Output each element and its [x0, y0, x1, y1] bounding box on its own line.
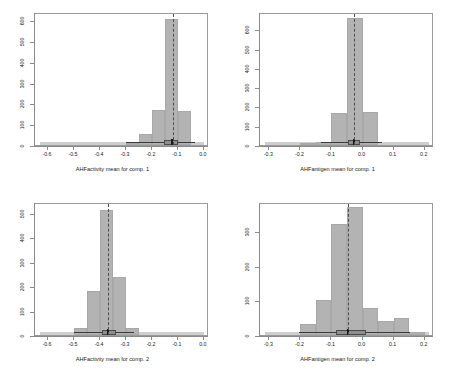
x-axis-tick-label: 0.1 — [389, 341, 396, 347]
x-axis-tick — [125, 336, 126, 340]
y-axis-tick — [255, 127, 259, 128]
y-axis-tick — [30, 42, 34, 43]
y-axis-tick — [30, 214, 34, 215]
x-axis-line — [34, 336, 208, 337]
y-axis-tick — [255, 301, 259, 302]
histogram-panel-bottom-left: AHFactivity mean for comp. 2 -0.6-0.5-0.… — [0, 190, 225, 380]
x-axis-tick-label: -0.5 — [68, 341, 77, 347]
histogram-panel-bottom-right: AHFantigen mean for comp. 2 -0.3-0.2-0.1… — [225, 190, 450, 380]
y-axis-tick — [255, 30, 259, 31]
histogram-bar — [347, 207, 363, 336]
y-axis-tick — [255, 336, 259, 337]
y-axis-tick-label: 0 — [244, 145, 250, 148]
histogram-bar — [300, 324, 316, 335]
y-axis-tick — [255, 146, 259, 147]
reference-line — [348, 204, 349, 335]
histogram-bar — [165, 19, 178, 145]
y-axis-tick — [30, 125, 34, 126]
histogram-bar — [363, 112, 379, 145]
histogram-panel-grid: AHFactivity mean for comp. 1 -0.6-0.5-0.… — [0, 0, 450, 380]
x-axis-tick-label: -0.2 — [295, 341, 304, 347]
y-axis-tick — [30, 21, 34, 22]
y-axis-tick-label: 100 — [19, 307, 25, 316]
x-axis-tick-label: -0.3 — [264, 151, 273, 157]
x-axis-title: AHFantigen mean for comp. 1 — [225, 166, 450, 172]
x-axis-tick-label: -0.4 — [94, 151, 103, 157]
y-axis-tick — [30, 238, 34, 239]
x-axis-tick-label: -0.4 — [94, 341, 103, 347]
histogram-bar — [409, 332, 425, 335]
y-axis-tick-label: 500 — [19, 38, 25, 47]
x-axis-tick-label: -0.3 — [264, 341, 273, 347]
x-axis-tick — [203, 336, 204, 340]
x-axis-tick-label: 0.0 — [199, 151, 206, 157]
x-axis-tick-label: -0.2 — [146, 151, 155, 157]
y-axis-line — [259, 13, 260, 146]
x-axis-title: AHFantigen mean for comp. 2 — [225, 356, 450, 362]
y-axis-tick — [30, 84, 34, 85]
y-axis-tick — [255, 50, 259, 51]
x-axis-tick — [393, 336, 394, 340]
x-axis-tick — [362, 336, 363, 340]
y-axis-tick-label: 400 — [19, 234, 25, 243]
x-axis-tick-label: -0.3 — [120, 151, 129, 157]
reference-line — [108, 204, 109, 335]
plot-area — [34, 203, 208, 336]
x-axis-tick — [330, 336, 331, 340]
x-axis-tick — [203, 146, 204, 150]
histogram-bar — [316, 300, 332, 335]
y-axis-tick — [255, 267, 259, 268]
plot-clip — [35, 204, 207, 335]
histogram-panel-top-left: AHFactivity mean for comp. 1 -0.6-0.5-0.… — [0, 0, 225, 190]
y-axis-tick-label: 200 — [244, 263, 250, 272]
reference-line — [173, 14, 174, 145]
y-axis-tick — [30, 263, 34, 264]
x-axis-tick-label: -0.1 — [172, 151, 181, 157]
y-axis-tick — [255, 69, 259, 70]
y-axis-tick-label: 600 — [244, 26, 250, 35]
plot-area — [259, 13, 433, 146]
x-axis-tick — [177, 336, 178, 340]
x-axis-tick — [424, 336, 425, 340]
y-axis-tick-label: 200 — [244, 103, 250, 112]
plot-clip — [260, 204, 432, 335]
histogram-bar — [331, 224, 347, 335]
x-axis-tick — [99, 146, 100, 150]
x-axis-tick-label: 0.1 — [389, 151, 396, 157]
y-axis-tick-label: 200 — [19, 283, 25, 292]
y-axis-tick-label: 0 — [19, 145, 25, 148]
x-axis-tick — [299, 336, 300, 340]
x-axis-line — [34, 146, 208, 147]
y-axis-line — [34, 203, 35, 336]
x-axis-tick — [125, 146, 126, 150]
y-axis-tick-label: 300 — [19, 79, 25, 88]
y-axis-tick-label: 600 — [19, 17, 25, 26]
y-axis-line — [34, 13, 35, 146]
y-axis-tick — [30, 104, 34, 105]
boxplot-whisker — [126, 142, 195, 143]
x-axis-tick — [268, 146, 269, 150]
y-axis-tick-label: 400 — [244, 65, 250, 74]
y-axis-tick — [255, 232, 259, 233]
x-axis-tick-label: 0.0 — [358, 151, 365, 157]
x-axis-tick — [330, 146, 331, 150]
x-axis-tick-label: 0.0 — [358, 341, 365, 347]
x-axis-tick-label: -0.2 — [146, 341, 155, 347]
y-axis-tick-label: 500 — [19, 210, 25, 219]
reference-line — [354, 14, 355, 145]
y-axis-tick-label: 0 — [244, 335, 250, 338]
histogram-bar — [139, 134, 152, 145]
y-axis-tick-label: 300 — [19, 258, 25, 267]
boxplot-box — [336, 330, 366, 335]
histogram-bar — [300, 143, 316, 145]
y-axis-tick-label: 400 — [19, 59, 25, 68]
x-axis-tick — [73, 336, 74, 340]
x-axis-tick — [73, 146, 74, 150]
y-axis-tick-label: 200 — [19, 100, 25, 109]
plot-clip — [35, 14, 207, 145]
histogram-bar — [331, 113, 347, 145]
histogram-bar — [87, 291, 100, 335]
x-axis-tick — [299, 146, 300, 150]
histogram-bar — [178, 111, 191, 145]
x-axis-tick — [393, 146, 394, 150]
